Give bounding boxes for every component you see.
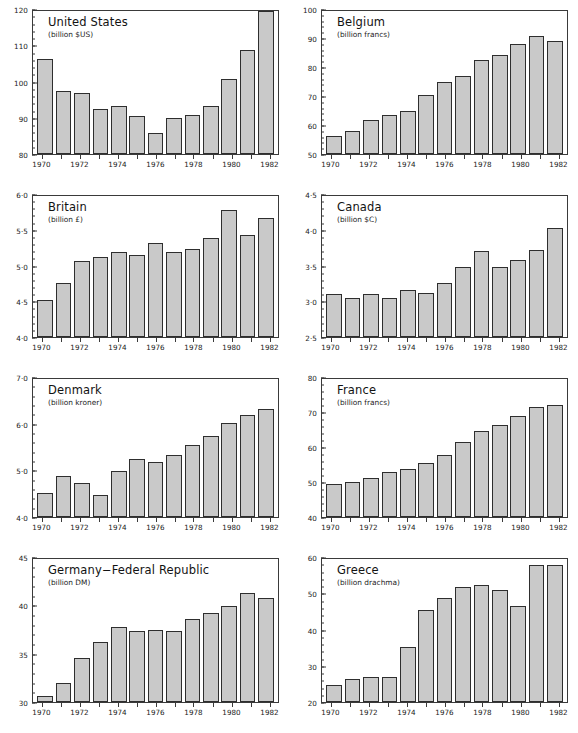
plot-area-germany-federal-republic: 30354045: [32, 558, 279, 703]
x-tick-label: 1978: [184, 523, 202, 532]
y-tick-minor: [321, 223, 324, 224]
x-tick: [426, 703, 427, 707]
bar: [547, 565, 563, 702]
x-tick-label: 1982: [260, 523, 278, 532]
y-tick-major: [321, 97, 326, 98]
x-tick-label: 1980: [511, 343, 529, 352]
x-tick-label: 1970: [32, 343, 50, 352]
bar: [345, 131, 361, 154]
bar: [418, 293, 434, 337]
bar: [56, 683, 72, 702]
bar: [203, 106, 219, 154]
bar: [492, 267, 508, 337]
y-tick-major: [32, 378, 37, 379]
y-tick-minor: [32, 596, 35, 597]
x-tick: [407, 703, 408, 707]
x-tick-label: 1980: [222, 343, 240, 352]
y-tick-label: 4·0: [305, 226, 321, 235]
x-tick-label: 1976: [435, 343, 453, 352]
bar: [203, 436, 219, 517]
plot-area-greece: 2030405060: [321, 558, 568, 703]
bar: [203, 613, 219, 702]
y-tick-minor: [32, 674, 35, 675]
y-tick-major: [321, 195, 326, 196]
x-tick: [80, 338, 81, 342]
y-tick-label: 100: [303, 6, 321, 15]
bar: [148, 462, 164, 517]
y-tick-minor: [32, 133, 35, 134]
y-tick-label: 80: [19, 151, 32, 160]
y-tick-label: 7·0: [16, 374, 32, 383]
bar: [221, 210, 237, 337]
y-tick-minor: [321, 91, 324, 92]
y-tick-minor: [32, 480, 35, 481]
bar: [474, 60, 490, 154]
bar: [510, 416, 526, 517]
bar: [474, 585, 490, 702]
bar: [93, 109, 109, 154]
y-tick-minor: [321, 572, 324, 573]
y-tick-major: [32, 302, 37, 303]
x-tick-label: 1970: [321, 523, 339, 532]
y-tick-minor: [321, 114, 324, 115]
x-tick: [42, 703, 43, 707]
y-tick-minor: [32, 452, 35, 453]
x-tick-label: 1970: [321, 160, 339, 169]
y-tick-minor: [321, 462, 324, 463]
y-tick-minor: [321, 441, 324, 442]
y-tick-minor: [321, 202, 324, 203]
bar-series-greece: [322, 559, 567, 702]
x-tick-label: 1970: [32, 523, 50, 532]
y-tick-minor: [321, 27, 324, 28]
y-tick-minor: [32, 508, 35, 509]
x-tick: [559, 155, 560, 159]
x-tick-label: 1982: [260, 343, 278, 352]
bar: [148, 630, 164, 702]
y-tick-label: 120: [14, 6, 32, 15]
bar: [382, 677, 398, 702]
chart-panel-britain: 4·04·55·05·56·01970197219741976197819801…: [0, 185, 289, 368]
x-tick-label: 1974: [397, 343, 415, 352]
x-tick-label: 1974: [108, 523, 126, 532]
bar: [240, 593, 256, 702]
chart-panel-greece: 20304050601970197219741976197819801982Gr…: [289, 548, 578, 733]
bar: [93, 642, 109, 702]
x-tick-label: 1980: [222, 523, 240, 532]
y-tick-minor: [32, 60, 35, 61]
y-tick-minor: [32, 434, 35, 435]
y-tick-label: 50: [308, 590, 321, 599]
y-tick-label: 80: [308, 374, 321, 383]
x-tick: [426, 518, 427, 522]
bar: [547, 41, 563, 154]
x-tick: [388, 518, 389, 522]
bar: [111, 627, 127, 702]
y-tick-minor: [321, 601, 324, 602]
bar: [363, 120, 379, 154]
bar: [111, 252, 127, 337]
bar: [37, 300, 53, 337]
y-tick-minor: [32, 53, 35, 54]
bar-series-france: [322, 379, 567, 517]
bar: [37, 696, 53, 702]
x-tick-label: 1970: [32, 708, 50, 717]
x-tick: [388, 338, 389, 342]
y-tick-label: 50: [308, 151, 321, 160]
y-tick-minor: [321, 469, 324, 470]
x-tick: [213, 518, 214, 522]
y-tick-major: [32, 424, 37, 425]
y-tick-minor: [321, 56, 324, 57]
y-tick-minor: [321, 434, 324, 435]
y-tick-label: 5·0: [16, 262, 32, 271]
bar: [363, 294, 379, 337]
y-tick-label: 80: [308, 64, 321, 73]
x-tick: [118, 155, 119, 159]
x-tick: [175, 703, 176, 707]
bar-series-united-states: [33, 11, 278, 154]
y-tick-major: [321, 483, 326, 484]
bar: [529, 565, 545, 702]
y-tick-minor: [321, 637, 324, 638]
x-tick: [251, 518, 252, 522]
bar: [529, 36, 545, 154]
bar: [400, 469, 416, 517]
x-tick: [213, 155, 214, 159]
